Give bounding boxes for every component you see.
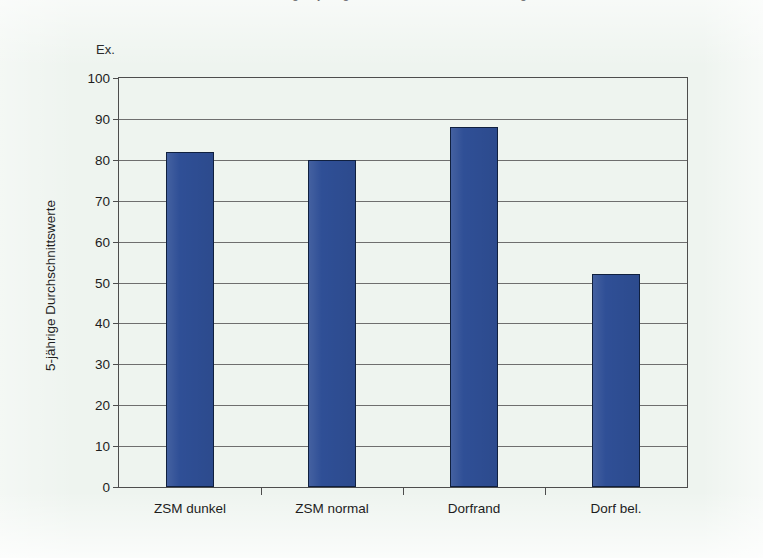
y-tick-label: 20 — [95, 398, 110, 413]
bar — [166, 152, 214, 487]
bar-shading — [593, 275, 639, 486]
y-tick-mark — [113, 119, 119, 120]
chart-figure: Abbildung: 5-jährige Durchschnittswerte … — [0, 0, 763, 558]
y-tick-mark — [113, 446, 119, 447]
plot-area: 0102030405060708090100 ZSM dunkelZSM nor… — [118, 77, 688, 488]
bar-shading — [451, 128, 497, 486]
x-tick-mark — [403, 487, 404, 495]
x-tick-mark — [261, 487, 262, 495]
bar — [308, 160, 356, 487]
x-category-label: Dorf bel. — [590, 501, 641, 516]
x-category-label: ZSM dunkel — [154, 501, 226, 516]
cropped-caption-strip: Abbildung: 5-jährige Durchschnittswerte … — [0, 0, 763, 9]
y-tick-label: 50 — [95, 275, 110, 290]
cropped-caption-text: Abbildung: 5-jährige Durchschnittswerte … — [118, 0, 658, 1]
y-tick-mark — [113, 405, 119, 406]
x-category-label: Dorfrand — [448, 501, 501, 516]
x-tick-mark — [545, 487, 546, 495]
y-tick-label: 40 — [95, 316, 110, 331]
y-tick-label: 30 — [95, 357, 110, 372]
y-tick-label: 60 — [95, 234, 110, 249]
y-tick-label: 10 — [95, 439, 110, 454]
bar-shading — [167, 153, 213, 486]
y-tick-mark — [113, 323, 119, 324]
y-axis-title: 5-jährige Durchschnittswerte — [43, 126, 58, 446]
bar — [450, 127, 498, 487]
y-tick-label: 0 — [102, 480, 110, 495]
y-tick-mark — [113, 242, 119, 243]
y-tick-mark — [113, 78, 119, 79]
x-category-label: ZSM normal — [295, 501, 369, 516]
y-tick-mark — [113, 160, 119, 161]
y-tick-label: 90 — [95, 111, 110, 126]
y-tick-mark — [113, 283, 119, 284]
bar — [592, 274, 640, 487]
y-tick-mark — [113, 364, 119, 365]
y-tick-label: 100 — [87, 71, 110, 86]
y-tick-label: 70 — [95, 193, 110, 208]
y-tick-mark — [113, 201, 119, 202]
y-tick-label: 80 — [95, 152, 110, 167]
y-axis-unit-label: Ex. — [96, 42, 115, 57]
gridline — [119, 119, 687, 120]
y-tick-mark — [113, 487, 119, 488]
bar-shading — [309, 161, 355, 486]
